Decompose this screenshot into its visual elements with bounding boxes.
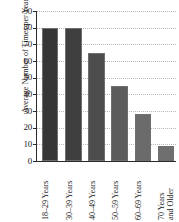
y-tick-label-wrap: 20 [0, 123, 32, 132]
y-tick-label: 0 [2, 157, 32, 166]
y-tick-label-wrap: 0 [0, 157, 32, 166]
y-tick-label-wrap: 80 [0, 23, 32, 32]
bar [135, 114, 152, 161]
y-tick-label: 20 [2, 123, 32, 132]
y-tick-label: 30 [2, 107, 32, 116]
y-tick-label: 90 [2, 7, 32, 16]
gridline [37, 11, 176, 12]
y-tick-label: 80 [2, 23, 32, 32]
x-axis-label: 70 Years and Older [158, 164, 175, 220]
bar [111, 86, 128, 161]
x-axis-line [36, 161, 176, 162]
y-tick-label-wrap: 30 [0, 107, 32, 116]
x-axis-label: 50–59 Years [112, 164, 121, 220]
y-axis-title: Average Number of Times per Year [20, 0, 32, 136]
y-tick-label-wrap: 50 [0, 73, 32, 82]
y-tick-mark [33, 161, 37, 162]
y-tick-label-wrap: 40 [0, 90, 32, 99]
y-tick-label: 70 [2, 40, 32, 49]
plot-area [37, 11, 176, 161]
x-axis-label: 18–29 Years [42, 164, 51, 220]
x-axis-label: 30–39 Years [66, 164, 75, 220]
y-tick-label: 50 [2, 73, 32, 82]
y-tick-label: 60 [2, 57, 32, 66]
bar [42, 28, 59, 161]
y-tick-label-wrap: 90 [0, 7, 32, 16]
bar [65, 28, 82, 161]
x-axis-label: 60–69 Years [135, 164, 144, 220]
y-tick-label: 10 [2, 140, 32, 149]
bar [158, 146, 175, 161]
bar-chart: Average Number of Times per Year 9080706… [0, 0, 179, 222]
y-tick-label-wrap: 10 [0, 140, 32, 149]
y-tick-label-wrap: 70 [0, 40, 32, 49]
x-axis-label: 40–49 Years [89, 164, 98, 220]
y-tick-label: 40 [2, 90, 32, 99]
y-tick-label-wrap: 60 [0, 57, 32, 66]
bar [88, 53, 105, 161]
